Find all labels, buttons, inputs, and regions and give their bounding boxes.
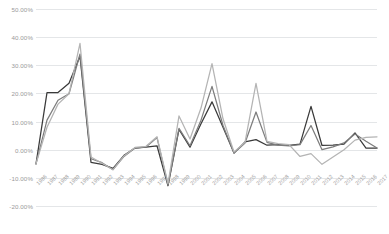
y-axis-tick-label: -10.00% <box>9 174 33 181</box>
x-axis-tick-label: 2012 <box>321 173 334 186</box>
x-axis-tick-label: 2000 <box>189 173 202 186</box>
x-axis-tick-label: 2007 <box>266 173 279 186</box>
x-axis-tick-label: 1987 <box>46 173 59 186</box>
x-axis-tick-label: 2009 <box>288 173 301 186</box>
y-axis-tick-labels: 50.00%40.00%30.00%20.00%10.00%0.00%-10.0… <box>0 0 36 234</box>
x-axis-tick-label: 2014 <box>343 173 356 186</box>
x-axis-tick-label: 2008 <box>277 173 290 186</box>
x-axis-tick-label: 2017 <box>376 173 389 186</box>
x-axis-tick-label: 2006 <box>255 173 268 186</box>
x-axis-tick-label: 1992 <box>101 173 114 186</box>
x-axis-tick-label: 1995 <box>134 173 147 186</box>
x-axis-tick-label: 2010 <box>299 173 312 186</box>
x-axis-tick-label: 1997 <box>156 173 169 186</box>
x-axis-tick-label: 2015 <box>354 173 367 186</box>
y-axis-tick-label: 10.00% <box>11 118 33 125</box>
x-axis-tick-label: 1986 <box>35 173 48 186</box>
x-axis-tick-label: 2004 <box>233 173 246 186</box>
y-axis-tick-label: 20.00% <box>11 90 33 97</box>
x-axis-tick-label: 1998 <box>167 173 180 186</box>
x-axis-tick-label: 1994 <box>123 173 136 186</box>
y-axis-tick-label: 40.00% <box>11 34 33 41</box>
x-axis-tick-label: 2003 <box>222 173 235 186</box>
x-axis-tick-label: 1999 <box>178 173 191 186</box>
x-axis-tick-label: 1988 <box>57 173 70 186</box>
x-axis-tick-label: 1993 <box>112 173 125 186</box>
x-axis-tick-label: 1991 <box>90 173 103 186</box>
x-axis-tick-label: 2001 <box>200 173 213 186</box>
y-axis-tick-label: -20.00% <box>9 203 33 210</box>
y-axis-tick-label: 0.00% <box>15 146 33 153</box>
x-axis-tick-labels: 1986198719881989199019911992199319941995… <box>36 158 377 218</box>
y-axis-tick-label: 30.00% <box>11 62 33 69</box>
x-axis-tick-label: 2011 <box>310 174 323 187</box>
x-axis-tick-label: 2005 <box>244 173 257 186</box>
y-axis-tick-label: 50.00% <box>11 6 33 13</box>
x-axis-tick-label: 1990 <box>79 173 92 186</box>
x-axis-tick-label: 2002 <box>211 173 224 186</box>
x-axis-tick-label: 2016 <box>365 173 378 186</box>
x-axis-tick-label: 1996 <box>145 173 158 186</box>
x-axis-tick-label: 1989 <box>68 173 81 186</box>
x-axis-tick-label: 2013 <box>332 173 345 186</box>
